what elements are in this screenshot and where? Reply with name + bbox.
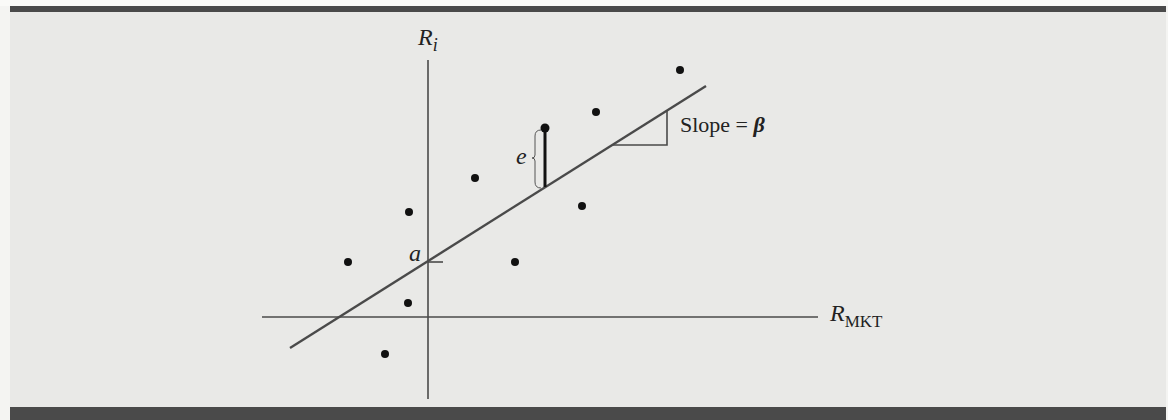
scatter-plot bbox=[0, 0, 1168, 420]
data-point bbox=[541, 124, 550, 133]
residual-brace bbox=[532, 130, 541, 188]
data-point bbox=[592, 108, 600, 116]
y-axis-label-sub: i bbox=[433, 35, 438, 55]
data-point bbox=[381, 350, 389, 358]
slope-label-text: Slope = bbox=[680, 112, 754, 137]
x-axis-label-sub: MKT bbox=[845, 312, 883, 331]
intercept-label: a bbox=[409, 240, 421, 267]
data-points bbox=[344, 66, 684, 358]
y-axis-label-main: R bbox=[418, 24, 433, 50]
residual-label: e bbox=[516, 143, 527, 170]
x-axis-label-main: R bbox=[830, 300, 845, 326]
x-axis-label: RMKT bbox=[830, 300, 882, 332]
data-point bbox=[344, 258, 352, 266]
data-point bbox=[405, 208, 413, 216]
data-point bbox=[511, 258, 519, 266]
data-point bbox=[404, 299, 412, 307]
data-point bbox=[676, 66, 684, 74]
y-axis-label: Ri bbox=[418, 24, 438, 56]
data-point bbox=[578, 202, 586, 210]
regression-line bbox=[290, 86, 706, 348]
slope-label: Slope = β bbox=[680, 112, 765, 138]
beta-symbol: β bbox=[754, 112, 765, 137]
data-point bbox=[471, 174, 479, 182]
